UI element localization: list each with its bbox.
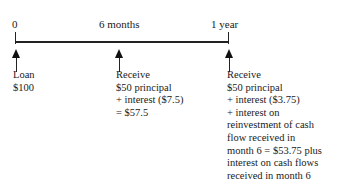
event-line: = $57.5 bbox=[116, 107, 183, 120]
event-line: Loan bbox=[13, 69, 35, 82]
event-line: flow received in bbox=[227, 132, 322, 145]
event-line: Receive bbox=[116, 69, 183, 82]
event-6-months: Receive $50 principal + interest ($7.5) … bbox=[116, 69, 183, 119]
event-line: received in month 6 bbox=[227, 170, 322, 180]
event-loan: Loan $100 bbox=[13, 69, 35, 94]
tick-label-0: 0 bbox=[12, 18, 18, 30]
event-line: Receive bbox=[227, 69, 322, 82]
tick-label-6-months: 6 months bbox=[99, 18, 140, 30]
event-line: interest on cash flows bbox=[227, 157, 322, 170]
event-line: + interest ($7.5) bbox=[116, 94, 183, 107]
event-line: $50 principal bbox=[227, 82, 322, 95]
event-1-year: Receive $50 principal + interest ($3.75)… bbox=[227, 69, 322, 180]
event-line: $100 bbox=[13, 82, 35, 95]
tick-mark-0 bbox=[15, 32, 16, 44]
event-line: month 6 = $53.75 plus bbox=[227, 145, 322, 158]
event-line: $50 principal bbox=[116, 82, 183, 95]
event-line: + interest ($3.75) bbox=[227, 94, 322, 107]
tick-label-1-year: 1 year bbox=[211, 18, 238, 30]
timeline-axis bbox=[16, 41, 229, 43]
event-line: reinvestment of cash bbox=[227, 119, 322, 132]
tick-mark-1-year bbox=[228, 32, 229, 44]
event-line: + interest on bbox=[227, 107, 322, 120]
